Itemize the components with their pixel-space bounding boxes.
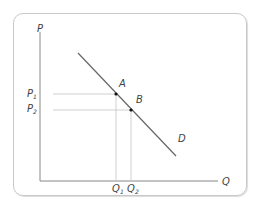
q1-main: Q [112, 183, 120, 194]
point-b-label: B [136, 94, 143, 105]
x-axis-label: Q [222, 176, 230, 187]
p2-label: P2 [27, 103, 37, 115]
q2-sub: 2 [135, 188, 139, 195]
q1-label: Q1 [112, 183, 124, 195]
q2-label: Q2 [127, 183, 139, 195]
y-axis-label: P [37, 23, 44, 34]
point-a [114, 92, 117, 95]
q1-sub: 1 [120, 188, 124, 195]
q2-main: Q [127, 183, 135, 194]
point-b [129, 108, 132, 111]
p1-sub: 1 [33, 93, 37, 100]
demand-diagram: P Q D A B P1 P2 Q1 Q2 [0, 0, 261, 211]
p2-sub: 2 [33, 108, 37, 115]
p1-label: P1 [27, 88, 37, 100]
demand-curve [78, 53, 176, 156]
curve-label: D [178, 133, 186, 144]
point-a-label: A [118, 78, 126, 89]
